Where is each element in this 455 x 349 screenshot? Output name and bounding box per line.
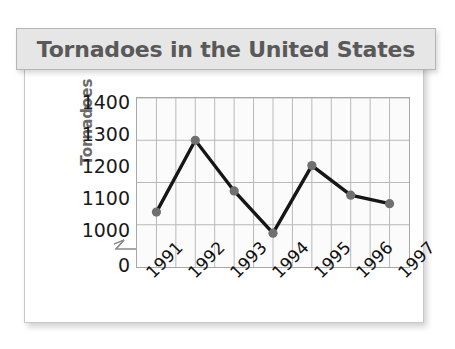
chart-title-banner: Tornadoes in the United States (16, 28, 436, 70)
data-point-1996 (346, 191, 355, 200)
y-tick-1400: 1400 (58, 93, 130, 112)
page-title: Tornadoes in the United States (37, 37, 415, 62)
data-point-1992 (191, 136, 200, 145)
y-tick-1100: 1100 (58, 189, 130, 208)
x-axis-tick-labels: 1991 1992 1993 1994 1995 1996 1997 (136, 268, 426, 328)
data-point-1995 (307, 161, 316, 170)
y-tick-1300: 1300 (58, 125, 130, 144)
data-point-1994 (268, 229, 277, 238)
data-point-1997 (385, 199, 394, 208)
data-point-1991 (152, 207, 161, 216)
chart-screenshot: Tornadoes in the United States Tornadoes… (0, 0, 455, 349)
y-tick-1200: 1200 (58, 157, 130, 176)
y-tick-0: 0 (58, 256, 130, 275)
data-point-1993 (230, 186, 239, 195)
